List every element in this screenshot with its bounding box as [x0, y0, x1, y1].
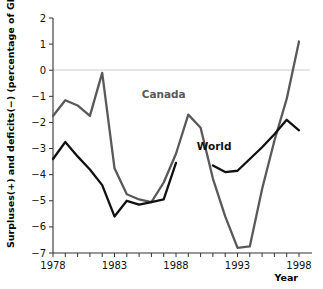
y-tick-label: −5	[31, 195, 46, 206]
y-tick-label: −7	[31, 248, 46, 259]
y-tick-label: −1	[31, 91, 46, 102]
series-label-canada: Canada	[142, 88, 186, 100]
chart-container: Surpluses(+) and deficits(−) (percentage…	[0, 0, 323, 289]
x-tick-label: 1988	[163, 260, 188, 271]
y-tick-label: −6	[31, 221, 46, 232]
y-axis-ticks: 210−1−2−3−4−5−6−7	[31, 13, 53, 259]
y-tick-label: 0	[40, 65, 46, 76]
y-tick-label: −2	[31, 117, 46, 128]
y-tick-label: 2	[40, 13, 46, 24]
series-paths	[53, 42, 299, 248]
y-tick-label: 1	[40, 39, 46, 50]
y-axis-label: Surpluses(+) and deficits(−) (percentage…	[5, 0, 16, 248]
x-tick-label: 1998	[286, 260, 311, 271]
y-tick-label: −3	[31, 143, 46, 154]
series-line-canada	[53, 42, 299, 248]
series-label-world: World	[197, 140, 232, 152]
line-chart: Surpluses(+) and deficits(−) (percentage…	[0, 0, 323, 289]
x-axis-label: Year	[273, 272, 298, 283]
x-tick-label: 1993	[225, 260, 250, 271]
series-line-world	[53, 142, 176, 216]
y-tick-label: −4	[31, 169, 46, 180]
x-axis-ticks: 19781983198819931998	[40, 253, 311, 271]
x-tick-label: 1983	[102, 260, 127, 271]
x-tick-label: 1978	[40, 260, 65, 271]
